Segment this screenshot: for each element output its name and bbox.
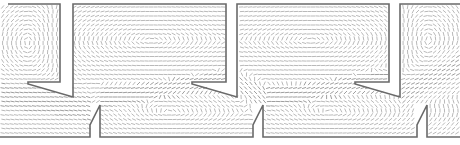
- velocity-vector: [15, 101, 18, 102]
- velocity-vector: [317, 37, 320, 39]
- velocity-vector: [280, 106, 283, 107]
- velocity-vector: [439, 46, 440, 49]
- velocity-vector: [183, 37, 184, 40]
- velocity-vector: [19, 115, 22, 116]
- velocity-vector: [421, 56, 424, 58]
- velocity-vector: [300, 82, 301, 85]
- velocity-vector: [20, 74, 23, 75]
- velocity-vector: [87, 65, 90, 66]
- velocity-vector: [453, 10, 455, 13]
- velocity-vector: [79, 65, 82, 67]
- velocity-vector: [199, 25, 202, 26]
- velocity-vector: [154, 78, 157, 79]
- velocity-vector: [433, 96, 435, 98]
- velocity-vector: [411, 123, 414, 125]
- velocity-vector: [384, 114, 386, 117]
- velocity-vector: [152, 109, 153, 112]
- velocity-vector: [195, 42, 197, 45]
- velocity-vector: [119, 74, 122, 75]
- velocity-vector: [290, 101, 293, 102]
- velocity-vector: [411, 96, 414, 98]
- velocity-vector: [200, 29, 203, 30]
- velocity-vector: [209, 29, 212, 30]
- velocity-vector: [19, 88, 22, 89]
- velocity-vector: [39, 28, 40, 31]
- velocity-vector: [429, 123, 432, 125]
- velocity-vector: [204, 25, 207, 26]
- velocity-vector: [298, 42, 301, 44]
- velocity-vector: [275, 61, 278, 62]
- velocity-vector: [100, 24, 103, 26]
- velocity-vector: [146, 92, 149, 93]
- velocity-vector: [137, 128, 140, 129]
- velocity-vector: [178, 37, 179, 40]
- velocity-vector: [195, 25, 198, 26]
- velocity-vector: [203, 79, 206, 80]
- velocity-vector: [122, 133, 125, 134]
- velocity-vector: [452, 15, 454, 18]
- velocity-vector: [357, 119, 360, 120]
- velocity-vector: [246, 37, 247, 40]
- velocity-vector: [361, 105, 364, 107]
- velocity-vector: [46, 115, 49, 116]
- velocity-vector: [325, 33, 328, 34]
- velocity-vector: [334, 87, 337, 88]
- velocity-vector: [228, 109, 229, 112]
- velocity-vector: [316, 96, 319, 98]
- velocity-vector: [91, 70, 94, 71]
- velocity-vector: [178, 47, 181, 48]
- velocity-vector: [28, 106, 31, 107]
- velocity-vector: [38, 64, 40, 66]
- velocity-vector: [222, 74, 225, 75]
- velocity-vector: [173, 78, 175, 81]
- velocity-vector: [375, 105, 377, 108]
- velocity-vector: [245, 96, 247, 99]
- velocity-vector: [47, 5, 48, 8]
- velocity-vector: [195, 51, 198, 52]
- velocity-vector: [298, 124, 301, 125]
- velocity-vector: [371, 119, 374, 121]
- velocity-vector: [195, 56, 198, 57]
- velocity-vector: [51, 133, 54, 134]
- velocity-vector: [330, 56, 333, 57]
- velocity-vector: [192, 37, 193, 40]
- velocity-vector: [177, 87, 180, 88]
- velocity-vector: [177, 78, 180, 80]
- velocity-vector: [6, 119, 9, 120]
- velocity-vector: [452, 65, 455, 67]
- velocity-vector: [74, 55, 76, 57]
- velocity-vector: [83, 110, 86, 111]
- velocity-vector: [155, 92, 158, 93]
- velocity-vector: [163, 52, 166, 53]
- velocity-vector: [268, 82, 270, 85]
- velocity-vector: [10, 106, 13, 107]
- velocity-vector: [348, 114, 351, 116]
- velocity-vector: [453, 46, 455, 49]
- velocity-vector: [339, 119, 342, 120]
- velocity-vector: [366, 69, 369, 71]
- velocity-vector: [443, 55, 446, 57]
- velocity-vector: [136, 88, 139, 89]
- velocity-vector: [457, 118, 459, 121]
- velocity-vector: [249, 29, 252, 30]
- velocity-vector: [132, 105, 134, 107]
- velocity-vector: [439, 113, 440, 116]
- velocity-vector: [109, 33, 111, 35]
- velocity-vector: [321, 87, 324, 88]
- velocity-vector: [133, 37, 135, 40]
- velocity-vector: [87, 24, 90, 26]
- velocity-vector: [448, 104, 449, 107]
- velocity-vector: [65, 128, 68, 129]
- velocity-vector: [385, 19, 387, 21]
- velocity-vector: [186, 56, 189, 57]
- velocity-vector: [430, 37, 431, 40]
- velocity-vector: [452, 104, 453, 107]
- velocity-vector: [96, 20, 99, 21]
- velocity-vector: [127, 105, 130, 107]
- velocity-vector: [448, 46, 449, 49]
- velocity-vector: [177, 115, 180, 116]
- velocity-vector: [219, 37, 221, 40]
- velocity-vector: [6, 110, 9, 111]
- velocity-vector: [19, 97, 22, 98]
- velocity-vector: [338, 61, 341, 62]
